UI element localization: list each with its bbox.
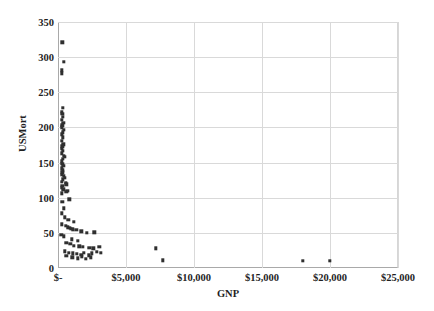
data-point (328, 259, 331, 262)
data-point (301, 259, 304, 262)
data-point (85, 231, 88, 234)
y-tick-label: 0 (2, 263, 54, 274)
x-axis-title: GNP (58, 288, 398, 299)
data-point (98, 245, 101, 248)
y-tick-label: 300 (2, 52, 54, 63)
gridline-horizontal (58, 127, 398, 128)
gridline-vertical (126, 22, 127, 268)
plot-area (58, 22, 398, 268)
data-point (99, 251, 102, 254)
y-tick-label: 150 (2, 157, 54, 168)
y-tick-label: 50 (2, 227, 54, 238)
data-point (62, 60, 65, 63)
gridline-horizontal (58, 163, 398, 164)
data-point (75, 228, 78, 231)
x-tick-label: $- (54, 272, 63, 283)
data-point (161, 259, 164, 262)
data-point (72, 244, 75, 247)
data-point (72, 220, 75, 223)
y-axis-title: USMort (17, 94, 28, 174)
x-axis-tick-labels: $-$5,000$10,000$15,000$20,000$25,000 (58, 272, 398, 288)
gridline-horizontal (58, 233, 398, 234)
data-point (81, 245, 84, 248)
data-point (75, 252, 78, 255)
y-tick-label: 100 (2, 192, 54, 203)
data-point (93, 230, 96, 233)
x-tick-label: $5,000 (112, 272, 141, 283)
y-tick-label: 350 (2, 17, 54, 28)
data-point (62, 207, 65, 210)
data-point (70, 237, 73, 240)
data-point (79, 230, 82, 233)
data-point (60, 192, 63, 195)
data-point (61, 200, 64, 203)
gridline-vertical (398, 22, 399, 268)
data-point (67, 218, 70, 221)
x-tick-label: $10,000 (177, 272, 211, 283)
data-point (154, 247, 157, 250)
data-point (67, 197, 70, 200)
y-tick-label: 200 (2, 122, 54, 133)
data-point (61, 106, 64, 109)
data-point (64, 190, 67, 193)
plot-frame (58, 22, 398, 268)
x-tick-label: $25,000 (381, 272, 415, 283)
y-tick-label: 250 (2, 87, 54, 98)
data-point (84, 257, 87, 260)
data-point (76, 239, 79, 242)
gridline-horizontal (58, 22, 398, 23)
data-point (65, 254, 68, 257)
data-point (89, 256, 92, 259)
data-point (95, 250, 98, 253)
data-point (80, 255, 83, 258)
x-tick-label: $15,000 (245, 272, 279, 283)
x-tick-label: $20,000 (313, 272, 347, 283)
data-point (62, 235, 65, 238)
data-point (65, 183, 68, 186)
data-point (76, 256, 79, 259)
data-point (60, 211, 63, 214)
gridline-vertical (330, 22, 331, 268)
gridline-horizontal (58, 198, 398, 199)
data-point (90, 252, 93, 255)
gridline-vertical (194, 22, 195, 268)
scatter-chart: 050100150200250300350 $-$5,000$10,000$15… (0, 0, 434, 311)
data-point (61, 41, 64, 44)
gridline-vertical (262, 22, 263, 268)
data-point (71, 256, 74, 259)
data-point (60, 72, 63, 75)
data-point (82, 251, 85, 254)
data-point (88, 246, 91, 249)
gridline-horizontal (58, 57, 398, 58)
gridline-horizontal (58, 92, 398, 93)
